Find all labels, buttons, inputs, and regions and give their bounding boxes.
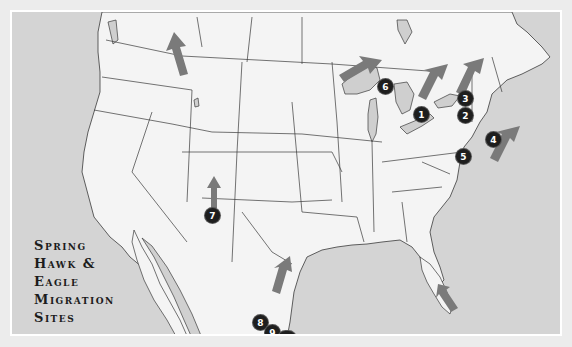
site-marker-5[interactable]: 5: [456, 149, 471, 164]
title-line-1: Spring: [34, 237, 115, 255]
title-line-3: Eagle: [34, 273, 115, 291]
site-marker-1[interactable]: 1: [414, 107, 429, 122]
site-marker-6[interactable]: 6: [378, 79, 393, 94]
site-marker-7[interactable]: 7: [205, 208, 220, 223]
site-marker-2[interactable]: 2: [458, 108, 473, 123]
site-marker-3[interactable]: 3: [458, 91, 473, 106]
title-line-2: Hawk &: [34, 255, 115, 273]
site-marker-9[interactable]: 9: [265, 325, 280, 336]
site-marker-4[interactable]: 4: [486, 132, 501, 147]
map-frame: Spring Hawk & Eagle Migration Sites 1 2 …: [10, 10, 562, 336]
site-marker-10[interactable]: 10: [278, 331, 296, 336]
map-title: Spring Hawk & Eagle Migration Sites: [34, 237, 115, 327]
title-line-5: Sites: [34, 309, 115, 327]
great-salt-lake: [194, 98, 199, 107]
title-line-4: Migration: [34, 291, 115, 309]
